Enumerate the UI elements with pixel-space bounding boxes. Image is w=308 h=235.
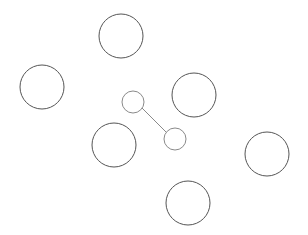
large-circle[interactable]: [166, 181, 210, 225]
link-line: [142, 108, 166, 132]
links-layer: [142, 108, 166, 132]
large-circle[interactable]: [99, 14, 143, 58]
small-circle[interactable]: [164, 128, 186, 150]
small-circle[interactable]: [122, 91, 144, 113]
large-circles-layer: [20, 14, 289, 225]
large-circle[interactable]: [92, 123, 136, 167]
large-circle[interactable]: [20, 65, 64, 109]
large-circle[interactable]: [245, 132, 289, 176]
game-board[interactable]: [0, 0, 308, 235]
large-circle[interactable]: [172, 73, 216, 117]
